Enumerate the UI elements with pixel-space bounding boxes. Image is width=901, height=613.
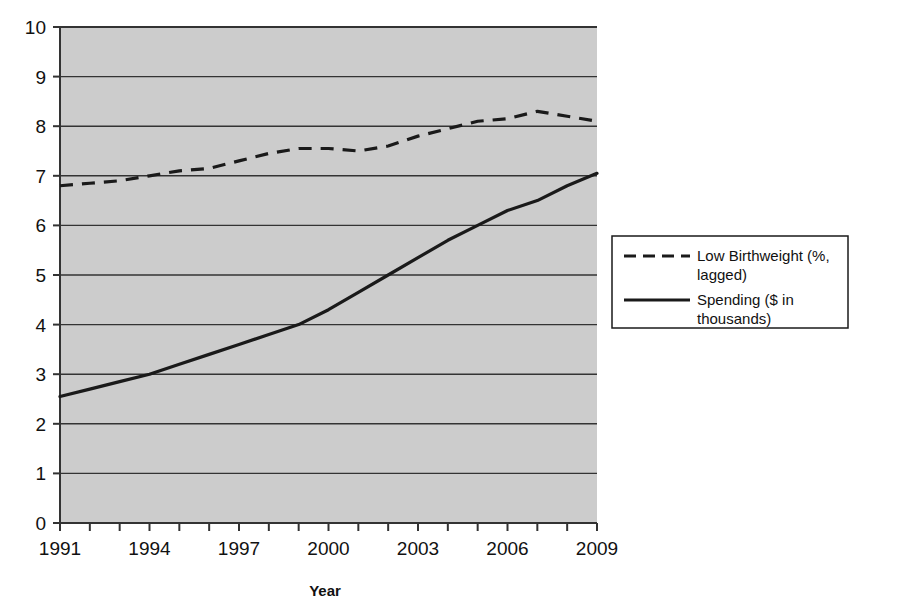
y-axis-tick-label: 10 (25, 17, 46, 38)
y-axis-tick-label: 2 (35, 414, 46, 435)
chart-svg: 012345678910 199119941997200020032006200… (0, 0, 901, 613)
chart-figure: 012345678910 199119941997200020032006200… (0, 0, 901, 613)
legend-label-spending-line2: thousands) (697, 310, 771, 327)
x-axis-tick-label: 1994 (128, 538, 171, 559)
y-axis-tick-label: 4 (35, 315, 46, 336)
y-axis-tick-label: 5 (35, 265, 46, 286)
y-axis-tick-label: 9 (35, 67, 46, 88)
x-axis-tick-label: 1991 (39, 538, 81, 559)
x-axis-title: Year (309, 582, 341, 599)
y-axis-tick-label: 8 (35, 116, 46, 137)
y-axis-tick-label: 0 (35, 513, 46, 534)
legend-label-spending-line1: Spending ($ in (697, 291, 794, 308)
legend-label-low-birthweight-line1: Low Birthweight (%, (697, 247, 830, 264)
legend: Low Birthweight (%, lagged) Spending ($ … (612, 236, 848, 328)
y-axis-tick-label: 1 (35, 463, 46, 484)
y-axis-tick-label: 7 (35, 166, 46, 187)
y-axis-tick-label: 6 (35, 215, 46, 236)
x-axis-tick-label: 2006 (486, 538, 528, 559)
y-axis-tick-label: 3 (35, 364, 46, 385)
legend-label-low-birthweight-line2: lagged) (697, 266, 747, 283)
x-axis-tick-label: 2009 (576, 538, 618, 559)
x-axis-tick-label: 2003 (397, 538, 439, 559)
x-axis-tick-label: 2000 (307, 538, 349, 559)
x-axis-tick-label: 1997 (218, 538, 260, 559)
